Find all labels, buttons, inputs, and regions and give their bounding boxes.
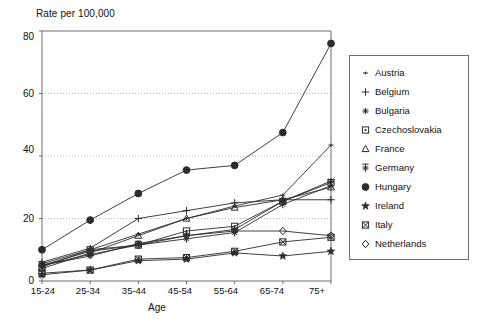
legend-item-hungary[interactable]: Hungary (350, 177, 468, 196)
legend-item-ireland[interactable]: Ireland (350, 196, 468, 215)
xtick-label-75plus: 75+ (309, 286, 325, 296)
netherlands-marker-icon (358, 237, 373, 251)
france-marker-icon (358, 142, 373, 156)
legend-label-netherlands: Netherlands (375, 238, 426, 249)
bulgaria-marker-icon (358, 104, 373, 118)
line-chart-figure: Rate per 100,000 80 60 40 20 0 15-24 25-… (0, 0, 477, 324)
czechoslovakia-marker-icon (358, 123, 373, 137)
ytick-label-20: 20 (8, 214, 34, 224)
axis-frame (39, 31, 331, 284)
plot-canvas (0, 0, 340, 324)
italy-marker-icon (358, 218, 373, 232)
legend-item-italy[interactable]: Italy (350, 215, 468, 234)
chart-title: Rate per 100,000 (36, 8, 115, 19)
x-axis-label: Age (148, 302, 166, 313)
legend-label-germany: Germany (375, 162, 414, 173)
xtick-label-45-54: 45-54 (168, 286, 192, 296)
legend-item-bulgaria[interactable]: Bulgaria (350, 101, 468, 120)
legend-label-bulgaria: Bulgaria (375, 105, 410, 116)
legend-label-france: France (375, 143, 405, 154)
series-austria (39, 144, 333, 266)
xtick-label-25-34: 25-34 (76, 286, 100, 296)
legend-label-austria: Austria (375, 67, 405, 78)
xtick-label-65-74: 65-74 (260, 286, 284, 296)
xtick-label-15-24: 15-24 (31, 286, 55, 296)
hungary-marker-icon (358, 180, 373, 194)
legend-label-czechoslovakia: Czechoslovakia (375, 124, 442, 135)
legend-item-austria[interactable]: Austria (350, 63, 468, 82)
legend-item-germany[interactable]: Germany (350, 158, 468, 177)
series-lines (38, 40, 335, 278)
ytick-label-60: 60 (8, 89, 34, 99)
ytick-label-40: 40 (8, 145, 34, 155)
legend-label-hungary: Hungary (375, 181, 411, 192)
legend-item-czechoslovakia[interactable]: Czechoslovakia (350, 120, 468, 139)
legend-item-france[interactable]: France (350, 139, 468, 158)
plot-area: Rate per 100,000 80 60 40 20 0 15-24 25-… (0, 0, 340, 324)
legend-label-italy: Italy (375, 219, 392, 230)
germany-marker-icon (358, 161, 373, 175)
legend-box: Austria Belgium Bulgaria Czechoslovakia … (349, 55, 469, 260)
ireland-marker-icon (358, 199, 373, 213)
austria-marker-icon (358, 66, 373, 80)
belgium-marker-icon (358, 85, 373, 99)
legend-item-netherlands[interactable]: Netherlands (350, 234, 468, 253)
legend-label-ireland: Ireland (375, 200, 404, 211)
xtick-label-55-64: 55-64 (214, 286, 238, 296)
legend-label-belgium: Belgium (375, 86, 409, 97)
legend-item-belgium[interactable]: Belgium (350, 82, 468, 101)
xtick-label-35-44: 35-44 (122, 286, 146, 296)
ytick-label-80: 80 (8, 32, 34, 42)
